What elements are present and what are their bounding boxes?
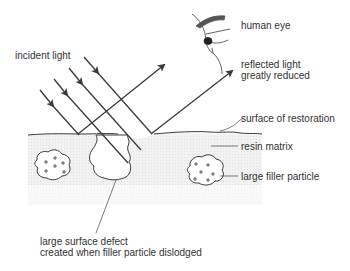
large-filler-particle-label: large filler particle xyxy=(241,171,319,182)
surface-defect-label-line1: large surface defect xyxy=(40,236,128,247)
human-eye-icon xyxy=(192,14,230,74)
reflected-light-rays xyxy=(78,65,232,134)
human-eye-label: human eye xyxy=(241,20,290,31)
surface-of-restoration-label: surface of restoration xyxy=(241,113,335,124)
left-filler-particle xyxy=(35,150,70,180)
incident-light-label: incident light xyxy=(15,50,71,61)
diagram-canvas xyxy=(0,0,350,271)
surface-defect-label-line2: created when filler particle dislodged xyxy=(40,247,202,258)
resin-matrix-label: resin matrix xyxy=(241,141,293,152)
reflected-light-label-line2: greatly reduced xyxy=(241,70,310,81)
reflected-light-label-line1: reflected light xyxy=(241,59,300,70)
right-filler-particle xyxy=(187,155,223,185)
